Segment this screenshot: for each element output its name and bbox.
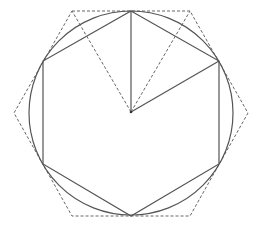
radius-line: [131, 61, 219, 112]
dashed-spoke-line: [72, 11, 131, 112]
center-point: [130, 111, 133, 114]
hexagon-circle-diagram: [0, 0, 263, 232]
center-dot: [130, 111, 133, 114]
dashed-spoke-line: [131, 11, 190, 112]
radii: [131, 11, 219, 112]
